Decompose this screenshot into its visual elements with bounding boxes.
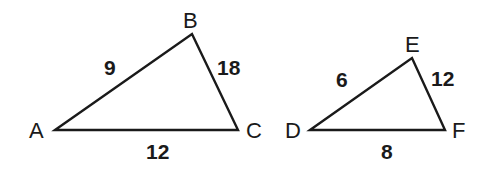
side-length-ef: 12 bbox=[431, 67, 454, 90]
vertex-label-a: A bbox=[29, 118, 44, 143]
side-length-bc: 18 bbox=[217, 56, 241, 79]
side-length-df: 8 bbox=[381, 140, 393, 163]
vertex-label-c: C bbox=[246, 118, 262, 143]
triangle-abc-outline bbox=[55, 34, 238, 130]
similar-triangles-figure: A B C 9 18 12 D E F 6 12 8 bbox=[0, 0, 488, 171]
side-length-ac: 12 bbox=[146, 140, 169, 163]
side-length-de: 6 bbox=[336, 68, 348, 91]
triangle-def-outline bbox=[310, 58, 445, 130]
triangle-abc: A B C 9 18 12 bbox=[29, 8, 262, 163]
diagram-canvas: A B C 9 18 12 D E F 6 12 8 bbox=[0, 0, 488, 171]
vertex-label-d: D bbox=[285, 118, 301, 143]
triangle-def: D E F 6 12 8 bbox=[285, 32, 465, 163]
vertex-label-e: E bbox=[405, 32, 420, 57]
side-length-ab: 9 bbox=[104, 56, 116, 79]
vertex-label-b: B bbox=[183, 8, 198, 33]
vertex-label-f: F bbox=[452, 118, 465, 143]
